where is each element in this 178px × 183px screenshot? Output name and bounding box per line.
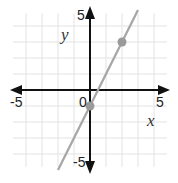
coordinate-plane: -5 0 5 5 -5 y x [0, 0, 178, 183]
x-tick-label-max: 5 [156, 94, 164, 110]
data-point [118, 38, 127, 47]
y-axis-label: y [59, 25, 69, 44]
y-tick-label-max: 5 [77, 7, 85, 23]
y-tick-label-min: -5 [73, 154, 86, 170]
origin-label: 0 [79, 94, 87, 110]
y-axis-down-arrow-icon [85, 161, 95, 174]
x-axis-label: x [146, 111, 155, 130]
y-axis-up-arrow-icon [85, 6, 95, 19]
x-tick-label-min: -5 [10, 94, 23, 110]
data-point [86, 102, 95, 111]
